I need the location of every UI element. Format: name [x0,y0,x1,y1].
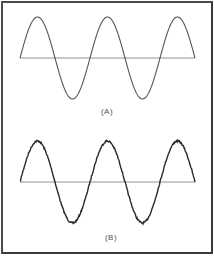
waveform-diagram [0,0,214,257]
panel-label-b: (B) [105,233,117,242]
panel-a-clean-sine [20,17,195,99]
panel-label-a: (A) [101,107,113,116]
panel-b-noisy-sine [20,140,195,224]
